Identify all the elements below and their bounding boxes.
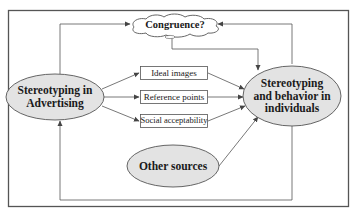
edge-advertising-to-ideal	[102, 73, 139, 89]
advertising-label-line1: Stereotyping in	[18, 84, 93, 97]
advertising-label: Stereotyping in Advertising	[8, 80, 102, 114]
diagram-canvas: Congruence? Stereotyping in Advertising …	[0, 0, 357, 217]
edge-other-to-individuals	[219, 117, 258, 166]
congruence-label: Congruence?	[140, 17, 210, 33]
edge-individuals-to-congruence	[218, 24, 292, 64]
individuals-label: Stereotyping and behavior in individuals	[246, 74, 338, 118]
edge-social-to-individuals	[208, 106, 245, 121]
edge-ideal-to-individuals	[208, 73, 244, 89]
other-sources-label: Other sources	[128, 158, 218, 174]
edge-advertising-to-social	[102, 106, 139, 121]
individuals-label-line2: and behavior in	[253, 90, 330, 103]
social-acceptability-label: Social acceptability	[140, 114, 208, 128]
reference-points-label: Reference points	[140, 90, 208, 104]
individuals-label-line1: Stereotyping	[261, 77, 323, 90]
edge-advertising-to-congruence	[60, 24, 130, 74]
edge-congruence-to-individuals	[172, 34, 258, 70]
cloud-small-puff	[165, 35, 175, 38]
advertising-label-line2: Advertising	[26, 97, 84, 110]
individuals-label-line3: individuals	[265, 102, 319, 115]
ideal-images-label: Ideal images	[140, 66, 208, 80]
